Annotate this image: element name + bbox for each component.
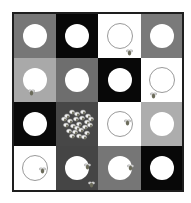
bee-icon (88, 173, 95, 180)
grid-cell-r0-c0[interactable] (14, 14, 56, 58)
circle-filled-icon (108, 68, 132, 92)
grid-cell-r0-c3[interactable] (141, 14, 182, 58)
grid-cell-r2-c3[interactable] (141, 102, 182, 146)
grid-cell-r0-c1[interactable] (56, 14, 98, 58)
circle-filled-icon (23, 24, 47, 48)
circle-filled-icon (150, 24, 174, 48)
bee-icon (28, 81, 35, 88)
circle-filled-icon (150, 156, 174, 180)
bee-icon (124, 111, 131, 118)
grid-cell-r1-c1[interactable] (56, 58, 98, 102)
grid-cell-r2-c0[interactable] (14, 102, 56, 146)
circle-filled-icon (23, 68, 47, 92)
bee-icon (127, 156, 134, 163)
game-board (12, 12, 184, 192)
grid-cell-r1-c2[interactable] (98, 58, 141, 102)
grid-cell-r3-c0[interactable] (14, 146, 56, 190)
grid-cell-r3-c3[interactable] (141, 146, 182, 190)
bee-icon (84, 155, 91, 162)
grid-cell-r3-c1[interactable] (56, 146, 98, 190)
grid-cell-r3-c2[interactable] (98, 146, 141, 190)
bee-swarm-icon (61, 108, 95, 140)
bee-icon (126, 41, 133, 48)
circle-filled-icon (150, 112, 174, 136)
grid-cell-r0-c2[interactable] (98, 14, 141, 58)
bee-icon (150, 84, 157, 91)
grid-cell-r2-c2[interactable] (98, 102, 141, 146)
circle-filled-icon (23, 112, 47, 136)
grid-cell-r2-c1[interactable] (56, 102, 98, 146)
grid-cell-r1-c0[interactable] (14, 58, 56, 102)
circle-filled-icon (65, 24, 89, 48)
grid-cell-r1-c3[interactable] (141, 58, 182, 102)
bee-icon (39, 159, 46, 166)
circle-filled-icon (65, 68, 89, 92)
